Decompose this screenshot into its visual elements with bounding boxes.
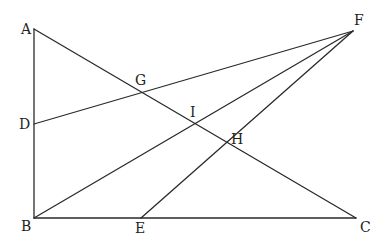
point-label-b: B <box>21 218 31 234</box>
segments-layer <box>34 29 356 218</box>
point-label-g: G <box>135 72 146 88</box>
point-label-f: F <box>354 12 364 28</box>
segment-bf <box>34 31 353 218</box>
point-label-a: A <box>20 21 32 37</box>
point-label-d: D <box>19 116 30 132</box>
diagram-svg: ABCDEFGIH <box>0 0 388 248</box>
point-label-h: H <box>231 131 243 147</box>
point-label-e: E <box>135 220 145 236</box>
point-label-i: I <box>190 104 196 120</box>
geometry-diagram: ABCDEFGIH <box>0 0 388 248</box>
point-label-c: C <box>360 219 371 235</box>
segment-ef <box>141 31 353 218</box>
